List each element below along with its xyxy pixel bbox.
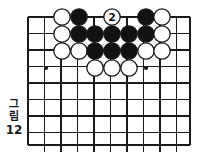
figure-caption: 그 림 12 — [3, 99, 25, 137]
stone-black[interactable] — [71, 9, 87, 25]
white-stone[interactable] — [54, 9, 70, 25]
figure-caption-korean: 그 림 — [3, 99, 25, 123]
white-stone[interactable] — [138, 43, 154, 59]
white-stone[interactable] — [121, 60, 137, 76]
stone-black[interactable] — [87, 43, 103, 59]
black-stone[interactable] — [138, 9, 154, 25]
move-number-label: 2 — [108, 11, 116, 24]
black-stone[interactable] — [138, 26, 154, 42]
stone-black[interactable] — [87, 26, 103, 42]
stone-black[interactable] — [71, 26, 87, 42]
stone-white[interactable] — [154, 26, 170, 42]
white-stone[interactable] — [154, 26, 170, 42]
stone-white[interactable] — [104, 60, 120, 76]
stone-white[interactable]: 2 — [104, 9, 120, 25]
white-stone[interactable] — [104, 60, 120, 76]
black-stone[interactable] — [121, 43, 137, 59]
white-stone[interactable] — [54, 26, 70, 42]
white-stone[interactable] — [154, 9, 170, 25]
figure-number: 12 — [3, 124, 25, 137]
star-point — [44, 66, 48, 70]
white-stone[interactable] — [71, 43, 87, 59]
black-stone[interactable] — [104, 26, 120, 42]
stone-black[interactable] — [138, 26, 154, 42]
stone-black[interactable] — [104, 43, 120, 59]
white-stone[interactable] — [154, 43, 170, 59]
stone-white[interactable] — [71, 43, 87, 59]
black-stone[interactable] — [71, 26, 87, 42]
black-stone[interactable] — [121, 26, 137, 42]
stone-black[interactable] — [138, 9, 154, 25]
caption-char-2: 림 — [3, 111, 25, 123]
white-stone[interactable] — [87, 60, 103, 76]
star-point — [144, 66, 148, 70]
go-board[interactable]: 2 — [0, 0, 207, 162]
black-stone[interactable] — [71, 9, 87, 25]
black-stone[interactable] — [104, 43, 120, 59]
stone-black[interactable] — [121, 26, 137, 42]
stone-black[interactable] — [104, 26, 120, 42]
white-stone[interactable] — [54, 43, 70, 59]
stone-white[interactable] — [154, 9, 170, 25]
stone-white[interactable] — [154, 43, 170, 59]
stone-black[interactable] — [121, 43, 137, 59]
stone-white[interactable] — [54, 26, 70, 42]
stone-white[interactable] — [54, 43, 70, 59]
black-stone[interactable] — [87, 43, 103, 59]
figure-root: 2 그 림 12 — [0, 0, 207, 162]
black-stone[interactable] — [87, 26, 103, 42]
stone-white[interactable] — [87, 60, 103, 76]
stone-white[interactable] — [54, 9, 70, 25]
stone-white[interactable] — [138, 43, 154, 59]
stone-white[interactable] — [121, 60, 137, 76]
